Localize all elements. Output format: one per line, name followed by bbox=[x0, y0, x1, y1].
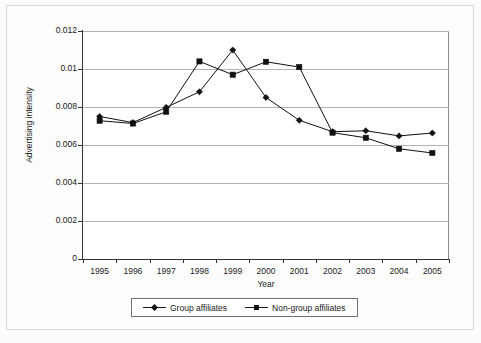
data-point-diamond bbox=[363, 128, 369, 134]
data-point-diamond bbox=[296, 117, 302, 123]
data-point-square bbox=[430, 150, 435, 155]
data-point-square bbox=[164, 109, 169, 114]
data-point-square bbox=[230, 72, 235, 77]
series-line bbox=[100, 61, 433, 153]
data-point-square bbox=[396, 146, 401, 151]
series-lines bbox=[0, 0, 481, 343]
legend-item[interactable]: Group affiliates bbox=[143, 303, 227, 313]
data-point-square bbox=[363, 135, 368, 140]
data-point-diamond bbox=[396, 133, 402, 139]
legend-item-label: Group affiliates bbox=[170, 303, 227, 313]
chart-legend: Group affiliatesNon-group affiliates bbox=[131, 298, 358, 317]
legend-square-marker-icon bbox=[245, 303, 268, 312]
data-point-square bbox=[330, 130, 335, 135]
data-point-square bbox=[97, 118, 102, 123]
data-point-diamond bbox=[263, 94, 269, 100]
data-point-square bbox=[197, 59, 202, 64]
legend-diamond-marker-icon bbox=[143, 303, 166, 312]
legend-item[interactable]: Non-group affiliates bbox=[245, 303, 346, 313]
legend-item-label: Non-group affiliates bbox=[272, 303, 346, 313]
data-point-square bbox=[297, 65, 302, 70]
data-point-square bbox=[130, 121, 135, 126]
figure-container: 00.0020.0040.0060.0080.010.012 199519961… bbox=[0, 0, 481, 343]
data-point-square bbox=[263, 59, 268, 64]
data-point-diamond bbox=[429, 130, 435, 136]
